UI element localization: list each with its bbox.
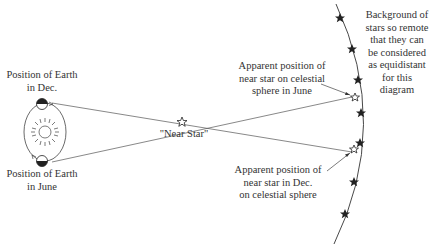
label-line: Apparent position of <box>228 164 328 177</box>
label-line: in Dec. <box>2 82 82 95</box>
label-line: in June <box>2 181 82 194</box>
filled-star-icon <box>355 138 365 147</box>
label-background-stars: Background of stars so remote that they … <box>357 9 429 97</box>
earth-orbit <box>24 103 66 161</box>
label-line: near star on celestial <box>232 73 332 86</box>
label-line: Background of <box>357 9 429 22</box>
sun-icon <box>31 118 59 146</box>
label-line: Position of Earth <box>2 168 82 181</box>
earth-icon-june <box>37 156 48 167</box>
filled-star-icon <box>347 44 357 53</box>
earth-icon-dec <box>37 99 48 110</box>
label-line: as equidistant <box>357 59 429 72</box>
label-line: near star in Dec. <box>228 177 328 190</box>
label-line: be considered <box>357 47 429 60</box>
label-line: Apparent position of <box>232 60 332 73</box>
label-apparent-june: Apparent position of near star on celest… <box>232 60 332 98</box>
label-line: diagram <box>357 84 429 97</box>
label-apparent-dec: Apparent position of near star in Dec. o… <box>228 164 328 202</box>
label-line: sphere in June <box>232 85 332 98</box>
label-line: for this <box>357 72 429 85</box>
filled-star-icon <box>356 108 366 117</box>
label-line: that they can <box>357 34 429 47</box>
label-line: Position of Earth <box>2 69 82 82</box>
label-earth-june: Position of Earth in June <box>2 168 82 193</box>
label-line: stars so remote <box>357 22 429 35</box>
label-earth-dec: Position of Earth in Dec. <box>2 69 82 94</box>
label-near-star: "Near Star" <box>152 128 216 141</box>
arrowhead-icon <box>345 92 350 95</box>
label-line: on celestial sphere <box>228 189 328 202</box>
